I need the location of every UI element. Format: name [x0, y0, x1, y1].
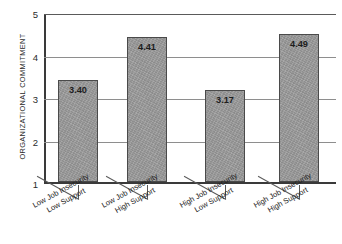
plot-area: 5 4 3 2 1 3.40 4.41 3.17 4.49 — [44, 14, 336, 184]
gridline-5 — [44, 14, 336, 15]
bar-value-label: 3.40 — [59, 85, 97, 95]
y-tick-4: 4 — [16, 51, 38, 62]
bar-value-label: 4.49 — [280, 39, 318, 49]
bar-value-label: 3.17 — [206, 95, 244, 105]
bar-low-insecurity-high-support: 4.41 — [127, 37, 167, 182]
bar-high-insecurity-low-support: 3.17 — [205, 90, 245, 182]
y-tick-5: 5 — [16, 9, 38, 20]
bar-high-insecurity-high-support: 4.49 — [279, 34, 319, 182]
y-tick-1: 1 — [16, 179, 38, 190]
bar-chart: ORGANIZATIONAL COMMITMENT 5 4 3 2 1 3.40… — [0, 0, 342, 244]
bar-low-insecurity-low-support: 3.40 — [58, 80, 98, 182]
y-tick-2: 2 — [16, 136, 38, 147]
y-tick-3: 3 — [16, 94, 38, 105]
bar-value-label: 4.41 — [128, 42, 166, 52]
